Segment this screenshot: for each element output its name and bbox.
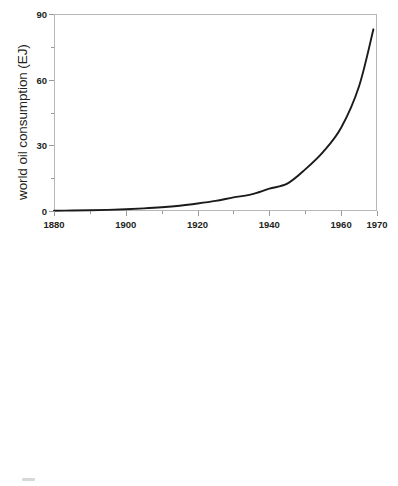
linear-y-tick-minor [51,113,54,114]
linear-x-tick-minor [90,211,91,214]
linear-x-tick-minor [162,211,163,214]
linear-y-tick-label: 30 [36,140,47,151]
linear-y-tick-minor [51,178,54,179]
linear-series-layer [54,14,377,211]
linear-plot-area: 0306090188019001920194019601970 [54,14,377,211]
log-chart-panel: world oil consumption (EJ) 0.11101001880… [0,243,398,486]
linear-y-tick-label: 60 [36,74,47,85]
linear-x-tick-label: 1940 [259,219,280,230]
linear-x-tick-label: 1880 [43,219,64,230]
linear-x-tick-major [54,211,55,216]
linear-x-tick-major [198,211,199,216]
linear-x-tick-major [269,211,270,216]
page-artifact-mark [22,478,35,481]
linear-chart-panel: world oil consumption (EJ) 0306090188019… [0,0,398,240]
linear-x-tick-major [126,211,127,216]
linear-x-tick-minor [305,211,306,214]
figure-canvas: world oil consumption (EJ) 0306090188019… [0,0,398,486]
linear-series-line [54,29,373,210]
linear-y-tick-major [49,145,54,146]
linear-y-tick-minor [51,47,54,48]
linear-x-tick-label: 1920 [187,219,208,230]
linear-x-tick-label: 1900 [115,219,136,230]
linear-y-tick-label: 90 [36,9,47,20]
linear-x-tick-minor [233,211,234,214]
linear-y-tick-major [49,80,54,81]
linear-y-axis-title: world oil consumption (EJ) [15,44,30,200]
linear-x-tick-label: 1960 [331,219,352,230]
linear-y-tick-major [49,14,54,15]
linear-x-tick-major [341,211,342,216]
linear-series-svg [54,14,377,211]
linear-y-tick-label: 0 [42,206,47,217]
linear-x-tick-major [377,211,378,216]
linear-x-tick-label: 1970 [366,219,387,230]
